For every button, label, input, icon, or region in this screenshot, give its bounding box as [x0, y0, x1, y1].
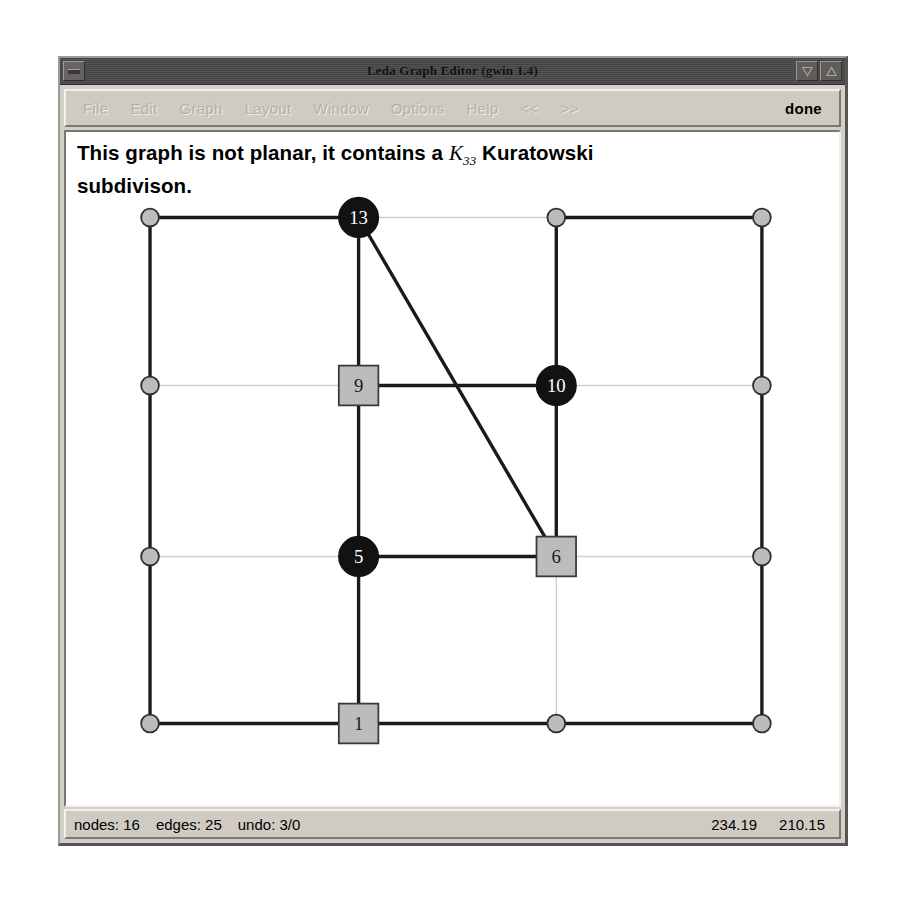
graph-node-label: 9 — [354, 375, 363, 396]
screen: Leda Graph Editor (gwin 1.4) File Edit G… — [0, 0, 905, 910]
statusbar-coordinates: 234.19 210.15 — [711, 816, 831, 833]
status-nodes-count: nodes: 16 — [74, 816, 140, 833]
graph-node-shape — [141, 209, 159, 227]
graph-node-shape — [753, 715, 771, 733]
graph-node-unlabeled[interactable] — [547, 209, 565, 227]
graph-node-unlabeled[interactable] — [753, 209, 771, 227]
graph-node-shape — [141, 377, 159, 395]
graph-node-9[interactable]: 9 — [339, 366, 379, 406]
status-coord-y: 210.15 — [779, 816, 825, 833]
statusbar-counts: nodes: 16 edges: 25 undo: 3/0 — [74, 816, 300, 833]
graph-node-shape — [141, 715, 159, 733]
statusbar: nodes: 16 edges: 25 undo: 3/0 234.19 210… — [64, 809, 841, 839]
done-button[interactable]: done — [774, 100, 833, 117]
maximize-icon[interactable] — [820, 61, 842, 81]
menu-item-layout[interactable]: Layout — [234, 100, 303, 117]
graph-node-6[interactable]: 6 — [537, 537, 577, 577]
graph-node-unlabeled[interactable] — [753, 377, 771, 395]
menu-item-options[interactable]: Options — [380, 100, 456, 117]
graph-node-unlabeled[interactable] — [141, 548, 159, 566]
window-titlebar[interactable]: Leda Graph Editor (gwin 1.4) — [60, 58, 845, 85]
graph-drawing[interactable]: 13910561 — [66, 132, 839, 805]
menu-item-prev[interactable]: << — [510, 100, 550, 117]
menu-item-file[interactable]: File — [72, 100, 119, 117]
minimize-icon[interactable] — [796, 61, 818, 81]
status-undo-count: undo: 3/0 — [238, 816, 301, 833]
menu-item-next[interactable]: >> — [550, 100, 590, 117]
graph-node-label: 1 — [354, 713, 363, 734]
graph-node-label: 6 — [552, 546, 561, 567]
menu-item-help[interactable]: Help — [455, 100, 509, 117]
graph-node-shape — [547, 209, 565, 227]
status-edges-count: edges: 25 — [156, 816, 222, 833]
graph-node-unlabeled[interactable] — [547, 715, 565, 733]
window-title: Leda Graph Editor (gwin 1.4) — [60, 63, 845, 79]
graph-node-label: 13 — [349, 207, 368, 228]
status-coord-x: 234.19 — [711, 816, 757, 833]
graph-node-shape — [753, 377, 771, 395]
graph-node-shape — [753, 209, 771, 227]
menu-item-edit[interactable]: Edit — [119, 100, 168, 117]
graph-node-label: 10 — [547, 375, 566, 396]
graph-node-unlabeled[interactable] — [141, 715, 159, 733]
graph-node-shape — [141, 548, 159, 566]
graph-canvas[interactable]: This graph is not planar, it contains a … — [64, 130, 841, 807]
graph-node-label: 5 — [354, 546, 363, 567]
graph-node-10[interactable]: 10 — [537, 366, 577, 406]
menu-item-window[interactable]: Window — [302, 100, 379, 117]
menubar: File Edit Graph Layout Window Options He… — [64, 89, 841, 127]
menu-item-graph[interactable]: Graph — [168, 100, 233, 117]
graph-node-unlabeled[interactable] — [753, 715, 771, 733]
graph-node-unlabeled[interactable] — [141, 377, 159, 395]
graph-node-shape — [547, 715, 565, 733]
graph-node-shape — [753, 548, 771, 566]
graph-node-13[interactable]: 13 — [339, 198, 379, 238]
graph-node-5[interactable]: 5 — [339, 537, 379, 577]
leda-graph-editor-window: Leda Graph Editor (gwin 1.4) File Edit G… — [58, 56, 848, 846]
graph-node-unlabeled[interactable] — [141, 209, 159, 227]
edge-layer — [150, 217, 762, 723]
graph-node-1[interactable]: 1 — [339, 704, 379, 744]
node-layer: 13910561 — [141, 198, 771, 744]
graph-node-unlabeled[interactable] — [753, 548, 771, 566]
window-controls — [796, 61, 842, 81]
